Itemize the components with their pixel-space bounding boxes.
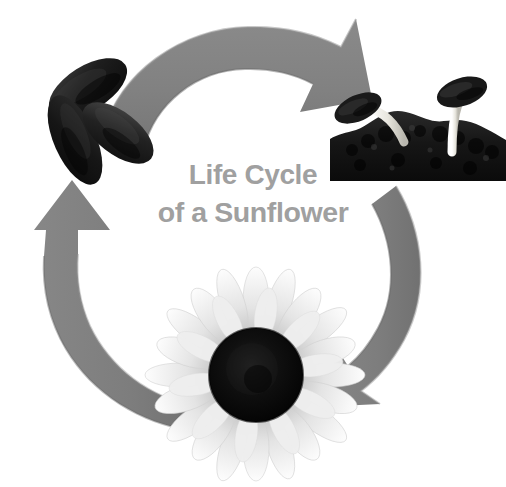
title-line-2: of a Sunflower [0,194,506,232]
stage-bloom [0,0,506,487]
sunflower-head [145,266,365,485]
life-cycle-poster: Life Cycle of a Sunflower [0,0,506,487]
title-line-1: Life Cycle [0,157,506,194]
poster-title: Life Cycle of a Sunflower [0,157,506,232]
